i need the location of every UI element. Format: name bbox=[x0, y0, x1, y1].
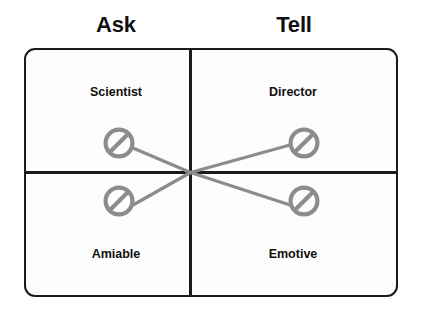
quadrant-label-director: Director bbox=[238, 86, 348, 99]
no-entry-icon bbox=[287, 184, 321, 218]
horizontal-divider bbox=[24, 171, 398, 174]
diagram-canvas: Ask Tell Scientist Director Amiable Emot… bbox=[0, 0, 424, 315]
no-entry-icon bbox=[102, 184, 136, 218]
no-entry-icon bbox=[287, 126, 321, 160]
quadrant-label-amiable: Amiable bbox=[61, 248, 171, 261]
no-entry-icon bbox=[102, 126, 136, 160]
column-header-tell: Tell bbox=[254, 14, 334, 36]
column-header-ask: Ask bbox=[76, 14, 156, 36]
quadrant-label-scientist: Scientist bbox=[61, 86, 171, 99]
quadrant-label-emotive: Emotive bbox=[238, 248, 348, 261]
